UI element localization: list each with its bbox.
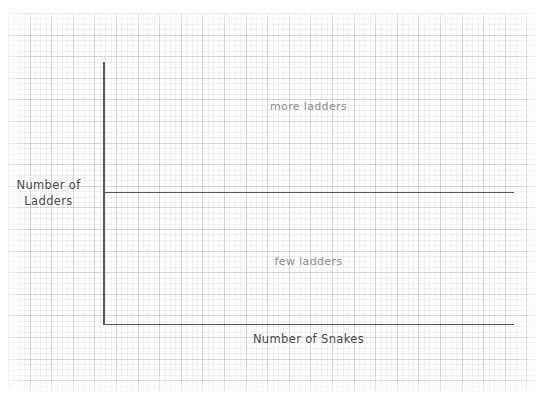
- x-axis-label: Number of Snakes: [103, 332, 514, 346]
- annotation-few-ladders: few ladders: [103, 255, 514, 268]
- annotation-more-ladders: more ladders: [103, 100, 514, 113]
- y-axis-label: Number of Ladders: [0, 177, 97, 209]
- chart-canvas: Number of Ladders Number of Snakes more …: [0, 0, 546, 409]
- x-axis-line: [103, 324, 514, 326]
- y-axis-label-line-1: Number of: [0, 177, 97, 193]
- y-axis-label-line-2: Ladders: [0, 193, 97, 209]
- horizontal-reference-line: [103, 192, 514, 194]
- plot-area: Number of Ladders Number of Snakes more …: [0, 0, 546, 409]
